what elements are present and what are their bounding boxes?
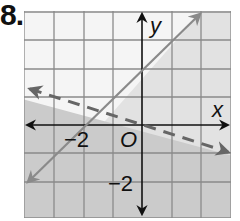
y-axis-label: y (148, 13, 163, 38)
y-tick-label-neg2: −2 (108, 171, 133, 196)
x-tick-label-neg2: −2 (64, 127, 89, 152)
origin-label: O (120, 127, 137, 152)
x-axis-label: x (211, 97, 224, 122)
coordinate-graph: y x O −2 −2 (0, 0, 240, 221)
